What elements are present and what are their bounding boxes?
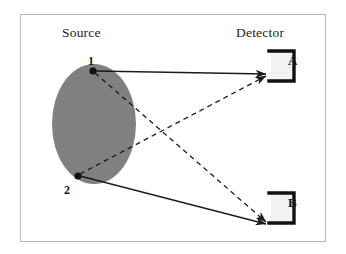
source-point-2	[74, 172, 81, 179]
source-ellipse	[52, 64, 136, 184]
detector-b-label: B	[288, 196, 297, 209]
diagram-canvas	[0, 0, 346, 254]
figure-root: Source Detector 1 2 A B	[0, 0, 346, 254]
detector-heading-label: Detector	[236, 26, 284, 40]
source-point-1	[89, 67, 96, 74]
source-heading-label: Source	[62, 26, 101, 40]
path-2-to-B	[80, 176, 266, 224]
path-1-to-A	[95, 71, 266, 74]
source-point-2-label: 2	[64, 184, 70, 196]
source-point-1-label: 1	[88, 55, 94, 67]
detector-a-label: A	[288, 54, 297, 67]
